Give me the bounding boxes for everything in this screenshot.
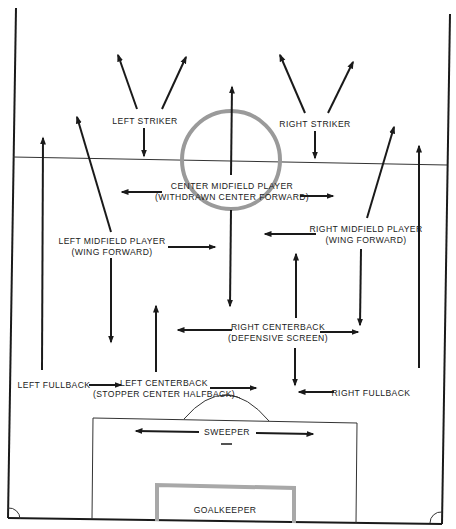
left-fullback-title: LEFT FULLBACK	[18, 380, 91, 391]
right-striker-title: RIGHT STRIKER	[279, 119, 350, 130]
right-midfield-subtitle: (WING FORWARD)	[309, 235, 422, 246]
left-striker-title: LEFT STRIKER	[112, 116, 177, 127]
goalkeeper-title: GOALKEEPER	[194, 505, 257, 516]
left-touchline	[8, 8, 16, 518]
label-right-fullback: RIGHT FULLBACK	[332, 388, 411, 399]
left-midfield-subtitle: (WING FORWARD)	[58, 247, 165, 258]
left-centerback-title: LEFT CENTERBACK	[93, 378, 235, 389]
goal-box	[157, 485, 294, 523]
sweeper-title: SWEEPER	[204, 427, 250, 438]
left-striker-arrows	[118, 55, 186, 156]
label-left-striker: LEFT STRIKER	[112, 116, 177, 127]
soccer-field	[0, 0, 456, 529]
left-midfield-title: LEFT MIDFIELD PLAYER	[58, 236, 165, 247]
center-midfield-subtitle: (WITHDRAWN CENTER FORWARD)	[155, 192, 309, 203]
right-fullback-title: RIGHT FULLBACK	[332, 388, 411, 399]
goal-line	[8, 518, 442, 524]
label-left-midfield: LEFT MIDFIELD PLAYER (WING FORWARD)	[58, 236, 165, 258]
label-sweeper: SWEEPER	[204, 427, 250, 438]
right-centerback-title: RIGHT CENTERBACK	[228, 322, 328, 333]
center-midfield-title: CENTER MIDFIELD PLAYER	[155, 181, 309, 192]
right-centerback-arrows	[178, 254, 358, 385]
label-right-striker: RIGHT STRIKER	[279, 119, 350, 130]
corner-arc-right	[430, 512, 442, 523]
label-left-fullback: LEFT FULLBACK	[18, 380, 91, 391]
label-goalkeeper: GOALKEEPER	[194, 505, 257, 516]
left-midfield-arrows	[77, 117, 215, 342]
right-midfield-title: RIGHT MIDFIELD PLAYER	[309, 224, 422, 235]
label-left-centerback: LEFT CENTERBACK (STOPPER CENTER HALFBACK…	[93, 378, 235, 400]
left-centerback-subtitle: (STOPPER CENTER HALFBACK)	[93, 389, 235, 400]
right-striker-arrows	[280, 55, 353, 158]
right-touchline	[442, 14, 450, 524]
label-right-midfield: RIGHT MIDFIELD PLAYER (WING FORWARD)	[309, 224, 422, 246]
label-center-midfield: CENTER MIDFIELD PLAYER (WITHDRAWN CENTER…	[155, 181, 309, 203]
halfway-line	[13, 157, 447, 165]
right-centerback-subtitle: (DEFENSIVE SCREEN)	[228, 333, 328, 344]
label-right-centerback: RIGHT CENTERBACK (DEFENSIVE SCREEN)	[228, 322, 328, 344]
